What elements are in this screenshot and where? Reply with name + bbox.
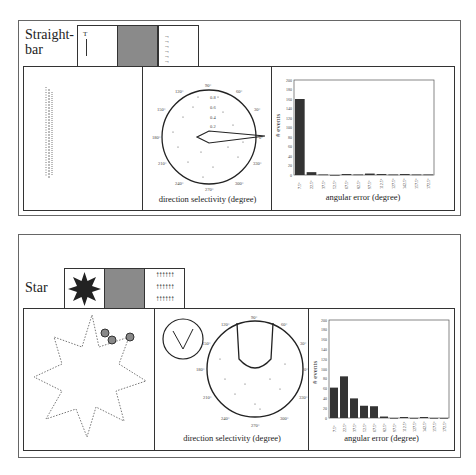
svg-text:52.5°: 52.5° xyxy=(332,180,337,189)
svg-text:240°: 240° xyxy=(221,416,230,421)
svg-text:37.5°: 37.5° xyxy=(321,180,326,189)
hist-ylabel: # events xyxy=(311,361,319,384)
star-polar-caption: direction selectivity (degree) xyxy=(155,433,309,443)
svg-text:97.5°: 97.5° xyxy=(367,180,372,189)
bar-shape-tile: T xyxy=(78,26,118,66)
svg-text:0.8: 0.8 xyxy=(210,95,216,100)
histogram-bar xyxy=(330,388,338,418)
svg-text:30°: 30° xyxy=(300,341,307,346)
inset-polar xyxy=(163,319,203,359)
svg-text:200: 200 xyxy=(286,78,292,83)
svg-text:172.5°: 172.5° xyxy=(442,421,447,432)
upward-arrows-tile: ↑↑↑↑↑↑↑↑↑↑↑↑↑↑↑↑↑↑ xyxy=(145,269,184,309)
svg-text:112.5°: 112.5° xyxy=(402,421,407,432)
svg-text:0.2: 0.2 xyxy=(210,124,216,129)
histogram-bar xyxy=(377,174,387,175)
svg-text:52.5°: 52.5° xyxy=(362,423,367,432)
histogram-bar xyxy=(318,175,328,176)
stimulus-strip-star: ↑↑↑↑↑↑↑↑↑↑↑↑↑↑↑↑↑↑ xyxy=(64,268,185,310)
star-polar-plot: 90°60°30° 0°330°300° 270°240°210° 180°15… xyxy=(155,309,309,434)
histogram-bar xyxy=(342,174,352,175)
svg-text:90°: 90° xyxy=(251,315,258,320)
svg-text:330°: 330° xyxy=(299,395,308,400)
hist-ylabel: # events xyxy=(274,114,282,137)
bar-polar-caption: direction selectivity (degree) xyxy=(143,194,272,204)
svg-text:97.5°: 97.5° xyxy=(392,423,397,432)
bar-polar-panel: 90°60°30° 0°330°300° 270°240°210° 180°15… xyxy=(142,66,273,211)
svg-text:300°: 300° xyxy=(280,416,289,421)
svg-text:140: 140 xyxy=(321,347,327,352)
histogram-bar xyxy=(400,417,408,418)
svg-text:22.5°: 22.5° xyxy=(309,180,314,189)
histogram-bar xyxy=(390,418,398,419)
gray-field-tile xyxy=(105,269,145,309)
svg-text:127.5°: 127.5° xyxy=(391,178,396,189)
svg-text:22.5°: 22.5° xyxy=(342,423,347,432)
star-trajectory-panel xyxy=(23,308,156,451)
row-label-straight-bar: Straight- bar xyxy=(25,27,74,57)
bar-histogram-panel: # events 7.5°22.5°37.5°52.5°67.5°82.5°97… xyxy=(271,66,455,211)
histogram-bar xyxy=(340,376,348,418)
histogram-bar xyxy=(423,175,433,176)
svg-text:30°: 30° xyxy=(254,107,261,112)
stimulus-strip-bar: T →→→→→→ xyxy=(77,25,199,67)
histogram-bar xyxy=(353,175,363,176)
marker-icon: T xyxy=(83,30,87,38)
row-label-star: Star xyxy=(25,280,48,295)
svg-text:270°: 270° xyxy=(205,187,214,192)
histogram-bar xyxy=(360,406,368,418)
svg-text:200: 200 xyxy=(321,318,327,323)
svg-text:0: 0 xyxy=(325,416,327,421)
label-line1: Straight- xyxy=(25,27,74,42)
svg-text:180: 180 xyxy=(321,327,327,332)
svg-text:67.5°: 67.5° xyxy=(344,180,349,189)
bar-trajectory-panel xyxy=(23,66,144,211)
svg-text:120: 120 xyxy=(321,357,327,362)
svg-text:112.5°: 112.5° xyxy=(379,178,384,189)
histogram-bar xyxy=(380,417,388,418)
svg-text:0.6: 0.6 xyxy=(210,105,216,110)
svg-text:210°: 210° xyxy=(158,161,167,166)
svg-text:0: 0 xyxy=(290,173,292,178)
svg-text:0.4: 0.4 xyxy=(210,115,216,120)
svg-text:127.5°: 127.5° xyxy=(412,421,417,432)
svg-text:60: 60 xyxy=(288,144,292,149)
svg-text:160: 160 xyxy=(286,97,292,102)
svg-text:150°: 150° xyxy=(157,107,166,112)
star-polar-panel: 90°60°30° 0°330°300° 270°240°210° 180°15… xyxy=(154,308,310,451)
svg-text:7.5°: 7.5° xyxy=(297,182,302,189)
svg-text:142.5°: 142.5° xyxy=(402,178,407,189)
svg-text:180°: 180° xyxy=(196,367,205,372)
histogram-bar xyxy=(420,417,428,418)
label-line2: bar xyxy=(25,42,74,57)
arrow-right-icon: →→→→→→ xyxy=(164,34,170,64)
histogram-bar xyxy=(295,99,305,175)
svg-text:82.5°: 82.5° xyxy=(382,423,387,432)
histogram-bar xyxy=(350,398,358,418)
svg-text:20: 20 xyxy=(288,163,292,168)
star-histogram: # events 7.5°22.5°37.5°52.5°67.5°82.5°97… xyxy=(309,309,454,434)
svg-text:160: 160 xyxy=(321,337,327,342)
histogram-bar xyxy=(365,174,375,175)
svg-text:82.5°: 82.5° xyxy=(356,180,361,189)
arrow-up-icon: ↑↑↑↑↑↑↑↑↑↑↑↑↑↑↑↑↑↑ xyxy=(145,269,184,305)
svg-text:120: 120 xyxy=(286,116,292,121)
svg-text:120°: 120° xyxy=(221,322,230,327)
star-hist-caption: angular error (degree) xyxy=(309,433,454,443)
svg-text:20: 20 xyxy=(323,406,327,411)
histogram-bar xyxy=(412,175,422,176)
svg-text:90°: 90° xyxy=(205,83,212,88)
svg-text:140: 140 xyxy=(286,106,292,111)
star-trajectory-plot xyxy=(24,309,155,450)
bar-trajectory-plot xyxy=(24,67,143,210)
svg-text:240°: 240° xyxy=(175,181,184,186)
svg-text:40: 40 xyxy=(288,154,292,159)
svg-text:120°: 120° xyxy=(175,89,184,94)
svg-text:80: 80 xyxy=(323,376,327,381)
histogram-bar xyxy=(440,418,448,419)
star-histogram-panel: # events 7.5°22.5°37.5°52.5°67.5°82.5°97… xyxy=(308,308,455,451)
bar-polar-plot: 90°60°30° 0°330°300° 270°240°210° 180°15… xyxy=(143,67,272,197)
svg-text:0°: 0° xyxy=(259,135,263,140)
histogram-bar xyxy=(370,406,378,418)
svg-text:157.5°: 157.5° xyxy=(414,178,419,189)
